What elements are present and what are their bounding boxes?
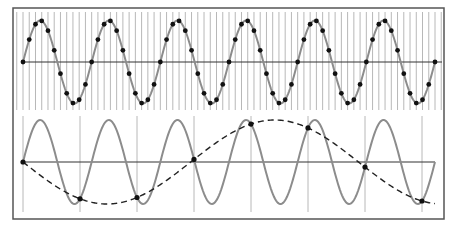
top-panel-well-sampled bbox=[17, 12, 442, 110]
sample-point bbox=[362, 165, 367, 170]
sample-point bbox=[164, 37, 169, 42]
sample-point bbox=[389, 28, 394, 33]
sample-point bbox=[20, 159, 25, 164]
sample-point bbox=[339, 91, 344, 96]
sample-point bbox=[370, 37, 375, 42]
sample-point bbox=[320, 28, 325, 33]
aliasing-diagram bbox=[0, 0, 459, 226]
sample-point bbox=[364, 60, 369, 65]
sample-point bbox=[191, 157, 196, 162]
sample-point bbox=[401, 71, 406, 76]
sample-point bbox=[202, 91, 207, 96]
sample-point bbox=[133, 91, 138, 96]
sample-point bbox=[302, 37, 307, 42]
sample-point bbox=[426, 82, 431, 87]
sample-point bbox=[333, 71, 338, 76]
sample-point bbox=[326, 48, 331, 53]
sample-point bbox=[345, 101, 350, 106]
sample-point bbox=[277, 101, 282, 106]
sample-point bbox=[33, 22, 38, 27]
bottom-sample-lines bbox=[23, 116, 422, 212]
sample-point bbox=[295, 60, 300, 65]
sample-point bbox=[395, 48, 400, 53]
sample-point bbox=[89, 60, 94, 65]
sample-point bbox=[351, 97, 356, 102]
sample-point bbox=[314, 19, 319, 24]
sample-point bbox=[419, 198, 424, 203]
sample-point bbox=[214, 97, 219, 102]
sample-point bbox=[252, 28, 257, 33]
sample-point bbox=[96, 37, 101, 42]
sample-point bbox=[127, 71, 132, 76]
sample-point bbox=[158, 60, 163, 65]
sample-point bbox=[139, 101, 144, 106]
sample-point bbox=[305, 125, 310, 130]
sample-point bbox=[208, 101, 213, 106]
sample-point bbox=[134, 195, 139, 200]
sample-point bbox=[170, 22, 175, 27]
sample-point bbox=[433, 60, 438, 65]
sample-point bbox=[227, 60, 232, 65]
sample-point bbox=[420, 97, 425, 102]
sample-point bbox=[27, 37, 32, 42]
sample-point bbox=[189, 48, 194, 53]
sample-point bbox=[114, 28, 119, 33]
sample-point bbox=[195, 71, 200, 76]
sample-point bbox=[64, 91, 69, 96]
sample-point bbox=[270, 91, 275, 96]
sample-point bbox=[52, 48, 57, 53]
sample-point bbox=[46, 28, 51, 33]
sample-point bbox=[102, 22, 107, 27]
sample-point bbox=[220, 82, 225, 87]
sample-point bbox=[383, 19, 388, 24]
sample-point bbox=[120, 48, 125, 53]
sample-point bbox=[289, 82, 294, 87]
sample-point bbox=[414, 101, 419, 106]
sample-point bbox=[233, 37, 238, 42]
sample-point bbox=[77, 97, 82, 102]
sample-point bbox=[358, 82, 363, 87]
sample-point bbox=[183, 28, 188, 33]
sample-point bbox=[408, 91, 413, 96]
sample-point bbox=[177, 19, 182, 24]
sample-point bbox=[83, 82, 88, 87]
sample-point bbox=[71, 101, 76, 106]
sample-point bbox=[258, 48, 263, 53]
sample-point bbox=[283, 97, 288, 102]
sample-point bbox=[248, 121, 253, 126]
sample-point bbox=[39, 19, 44, 24]
sample-point bbox=[264, 71, 269, 76]
bottom-panel-undersampled bbox=[20, 116, 435, 212]
sample-point bbox=[376, 22, 381, 27]
sample-point bbox=[145, 97, 150, 102]
sample-point bbox=[152, 82, 157, 87]
sample-point bbox=[21, 60, 26, 65]
sample-point bbox=[308, 22, 313, 27]
sample-point bbox=[58, 71, 63, 76]
sample-point bbox=[108, 19, 113, 24]
sample-point bbox=[239, 22, 244, 27]
sample-point bbox=[77, 196, 82, 201]
sample-point bbox=[245, 19, 250, 24]
